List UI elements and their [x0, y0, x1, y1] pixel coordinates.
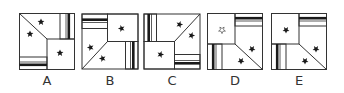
- option-c-label: C: [152, 73, 192, 88]
- pattern-group: [20, 14, 75, 70]
- pattern-group: [272, 14, 327, 70]
- option-a-figure[interactable]: [19, 13, 75, 70]
- option-b-figure[interactable]: [82, 13, 138, 70]
- option-c-figure[interactable]: [144, 13, 200, 70]
- option-e-figure[interactable]: [271, 13, 327, 70]
- option-d-label: D: [215, 73, 255, 88]
- pattern-group: [208, 14, 263, 70]
- option-d-figure[interactable]: [207, 13, 263, 70]
- option-a-label: A: [27, 73, 67, 88]
- pattern-group: [144, 14, 200, 69]
- pattern-group: [82, 14, 138, 69]
- option-e-label: E: [279, 73, 319, 88]
- option-b-label: B: [90, 73, 130, 88]
